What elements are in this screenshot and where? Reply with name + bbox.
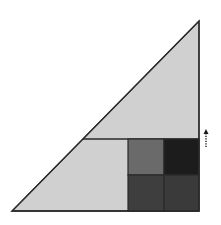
square-top-left — [128, 139, 164, 175]
square-top-right — [164, 139, 199, 175]
square-bottom-right — [164, 175, 199, 211]
dotted-up-arrow-icon — [204, 129, 209, 147]
square-bottom-left — [128, 175, 164, 211]
diagram-canvas — [0, 0, 221, 225]
arrow-head-icon — [204, 129, 209, 134]
